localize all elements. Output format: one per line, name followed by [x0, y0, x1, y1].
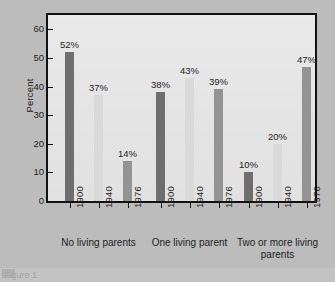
y-axis-tick-label: 30	[24, 110, 44, 120]
x-axis-year-label: 1940	[194, 186, 205, 208]
bar-value-label: 39%	[204, 76, 234, 87]
x-axis-group-label-line: parents	[226, 249, 330, 261]
x-axis-tick-mark	[99, 203, 100, 208]
x-axis-tick-mark	[249, 203, 250, 208]
bars-layer: 52%37%14%38%43%39%10%20%47%	[48, 15, 315, 201]
x-axis-group-label: Two or more livingparents	[226, 237, 330, 260]
bar	[302, 67, 311, 201]
y-axis-tick-label: 10	[24, 167, 44, 177]
x-axis-year-label: 1976	[223, 186, 234, 208]
bar	[273, 144, 282, 201]
x-axis-year-label: 1940	[103, 186, 114, 208]
y-axis-tick-label: 0	[24, 196, 44, 206]
y-axis-tick-mark	[48, 115, 53, 116]
bar-value-label: 14%	[113, 148, 143, 159]
y-axis-tick-mark	[48, 144, 53, 145]
bar-value-label: 10%	[234, 159, 264, 170]
y-axis-tick-label: 50	[24, 53, 44, 63]
y-axis-tick-labels: 0102030405060	[20, 0, 44, 282]
x-axis-group-label-line: No living parents	[47, 237, 151, 249]
x-axis-year-label: 1976	[132, 186, 143, 208]
y-axis-tick-mark	[48, 29, 53, 30]
x-axis-tick-mark	[70, 203, 71, 208]
bar	[185, 78, 194, 201]
x-axis-year-label: 1900	[253, 186, 264, 208]
x-axis-tick-mark	[190, 203, 191, 208]
x-axis-tick-mark	[278, 203, 279, 208]
plot-area: 52%37%14%38%43%39%10%20%47%	[46, 13, 317, 203]
bar	[65, 52, 74, 201]
y-axis-tick-label: 40	[24, 82, 44, 92]
y-axis-tick-label: 20	[24, 139, 44, 149]
y-axis-tick-mark	[48, 58, 53, 59]
x-axis-year-label: 1976	[311, 186, 322, 208]
bar	[94, 95, 103, 201]
x-axis-group-label: No living parents	[47, 237, 151, 249]
x-axis-group-label-line: Two or more living	[226, 237, 330, 249]
bar	[123, 161, 132, 201]
y-axis-tick-label: 60	[24, 24, 44, 34]
bar	[244, 172, 253, 201]
x-axis-tick-mark	[307, 203, 308, 208]
figure-canvas: Percent 0102030405060 52%37%14%38%43%39%…	[0, 0, 335, 282]
figure-caption-text: Figure 1	[4, 270, 37, 280]
x-axis-tick-mark	[128, 203, 129, 208]
y-axis-tick-mark	[48, 172, 53, 173]
x-axis-year-label: 1900	[165, 186, 176, 208]
bar-value-label: 47%	[292, 54, 322, 65]
x-axis-year-label: 1900	[74, 186, 85, 208]
bar	[214, 89, 223, 201]
y-axis-tick-mark	[48, 87, 53, 88]
x-axis-tick-mark	[161, 203, 162, 208]
x-axis-year-label: 1940	[282, 186, 293, 208]
bar-value-label: 52%	[55, 39, 85, 50]
bar-value-label: 37%	[84, 82, 114, 93]
bar-value-label: 20%	[263, 131, 293, 142]
bar-value-label: 43%	[175, 65, 205, 76]
figure-caption-strip: Figure 1	[0, 268, 335, 282]
bar-value-label: 38%	[146, 79, 176, 90]
bar	[156, 92, 165, 201]
x-axis-tick-mark	[219, 203, 220, 208]
